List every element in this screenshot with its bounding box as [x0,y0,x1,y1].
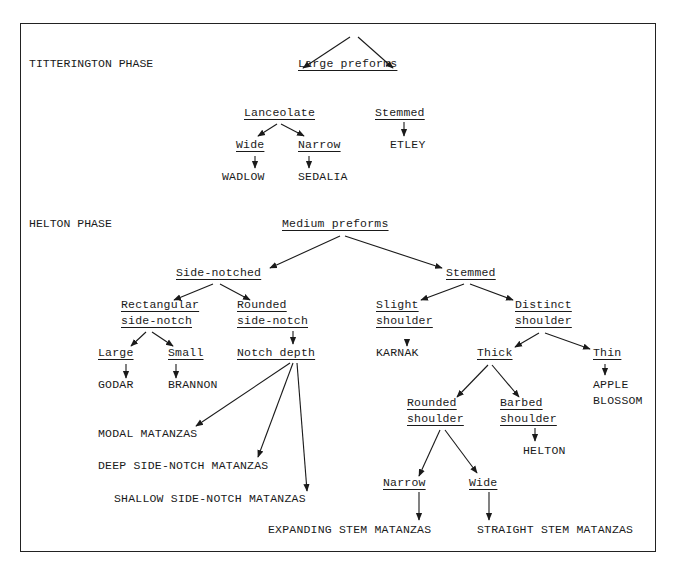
node-rectangular-side-notch-1: Rectangular [121,298,199,312]
type-helton: HELTON [523,444,566,458]
phase-title-helton: HELTON PHASE [29,217,112,230]
node-rounded-shoulder-1: Rounded [407,396,457,410]
node-narrow-helton: Narrow [383,476,426,490]
type-karnak: KARNAK [376,346,419,360]
node-thick: Thick [477,346,513,360]
node-rounded-side-notch-2: side-notch [237,314,308,328]
node-large-preforms: Large preforms [298,57,397,71]
node-barbed-shoulder-1: Barbed [500,396,543,410]
type-modal-matanzas: MODAL MATANZAS [98,427,197,441]
type-shallow-side-notch-matanzas: SHALLOW SIDE-NOTCH MATANZAS [114,492,306,506]
node-wide-helton: Wide [469,476,497,490]
type-etley: ETLEY [390,138,426,152]
node-wide-titterington: Wide [236,138,264,152]
type-godar: GODAR [98,378,134,392]
type-sedalia: SEDALIA [298,170,348,184]
node-distinct-shoulder-1: Distinct [515,298,572,312]
node-side-notched: Side-notched [176,266,261,280]
node-medium-preforms: Medium preforms [282,217,389,231]
type-deep-side-notch-matanzas: DEEP SIDE-NOTCH MATANZAS [98,459,268,473]
type-expanding-stem-matanzas: EXPANDING STEM MATANZAS [268,523,431,537]
node-barbed-shoulder-2: shoulder [500,412,557,426]
type-straight-stem-matanzas: STRAIGHT STEM MATANZAS [477,523,633,537]
phase-title-titterington: TITTERINGTON PHASE [29,57,153,70]
node-large-helton: Large [98,346,134,360]
node-stemmed-helton: Stemmed [446,266,496,280]
node-rounded-side-notch-1: Rounded [237,298,287,312]
node-stemmed-titterington: Stemmed [375,106,425,120]
node-notch-depth: Notch depth [237,346,315,360]
node-small: Small [168,346,204,360]
node-thin: Thin [593,346,621,360]
type-brannon: BRANNON [168,378,218,392]
node-slight-shoulder-1: Slight [376,298,419,312]
node-rectangular-side-notch-2: side-notch [121,314,192,328]
node-distinct-shoulder-2: shoulder [515,314,572,328]
node-slight-shoulder-2: shoulder [376,314,433,328]
type-apple-blossom-1: APPLE [593,378,629,392]
type-apple-blossom-2: BLOSSOM [593,394,643,408]
node-rounded-shoulder-2: shoulder [407,412,464,426]
node-lanceolate: Lanceolate [244,106,315,120]
node-narrow-titterington: Narrow [298,138,341,152]
type-wadlow: WADLOW [222,170,265,184]
